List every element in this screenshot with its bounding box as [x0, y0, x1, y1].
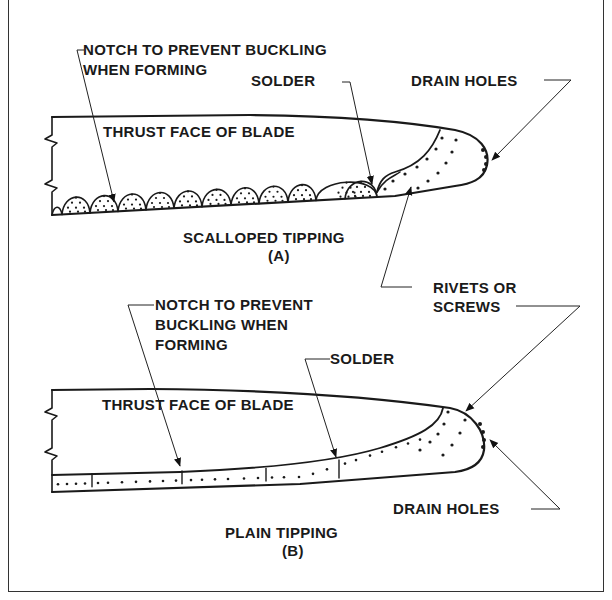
solder-a-leader — [342, 82, 372, 184]
scallop-stipple-dot — [135, 198, 137, 200]
strip-rivet-dot — [227, 478, 230, 481]
notch-a-label-line1: NOTCH TO PREVENT BUCKLING — [83, 41, 327, 58]
strip-rivet-dot — [257, 477, 260, 480]
scallop-stipple-dot — [362, 195, 364, 197]
rivet — [446, 410, 449, 413]
strip-rivet-dot — [66, 483, 69, 486]
scallop-stipple-dot — [77, 211, 79, 213]
rivet — [450, 150, 453, 153]
drain-hole — [481, 445, 485, 449]
scallop-stipple-dot — [151, 202, 153, 204]
solder-a-label: SOLDER — [251, 72, 315, 89]
strip-rivet-dot — [190, 479, 193, 482]
rivet — [426, 179, 429, 182]
scallop-stipple-dot — [360, 181, 362, 183]
scallop-stipple-dot — [215, 199, 217, 201]
rivet — [391, 179, 394, 182]
strip-rivet-dot — [135, 481, 138, 484]
blade-b-strip-edge — [52, 408, 443, 475]
scallop-stipple-dot — [75, 197, 77, 199]
scallop-stipple-dot — [347, 196, 349, 198]
scallop-stipple-dot — [281, 200, 283, 202]
scallop-stipple-dot — [360, 191, 362, 193]
scallop-stipple-dot — [368, 191, 370, 193]
scallop-stipple-dot — [131, 203, 133, 205]
rivets-b-leader — [466, 306, 580, 411]
scallop-stipple-dot — [276, 191, 278, 193]
scallop-stipple-dot — [161, 206, 163, 208]
thrust-face-b-label: THRUST FACE OF BLADE — [102, 396, 294, 413]
scallop-stipple-dot — [211, 194, 213, 196]
scallop-stipple-dot — [99, 200, 101, 202]
caption-a-letter: (A) — [268, 247, 290, 264]
scallop-stipple-dot — [189, 204, 191, 206]
scallop-stipple-dot — [223, 199, 225, 201]
scallop-stipple-dot — [345, 182, 347, 184]
scallop-stipple-dot — [163, 197, 165, 199]
scallop-stipple-dot — [217, 203, 219, 205]
solder-b-leader — [305, 359, 336, 457]
drain-hole — [484, 162, 488, 166]
scallop-stipple-dot — [107, 200, 109, 202]
scallop-stipple-dot — [195, 200, 197, 202]
scallop-stipple-dot — [297, 189, 299, 191]
strip-rivet-dot — [395, 446, 398, 449]
scallop-stipple-dot — [272, 196, 274, 198]
strip-rivet-dot — [243, 477, 246, 480]
scallop-stipple-dot — [219, 194, 221, 196]
rivet — [458, 431, 461, 434]
scallop-notches — [52, 181, 377, 215]
strip-rivet-dot — [344, 462, 347, 465]
scallop-stipple-dot — [127, 198, 129, 200]
strip-rivet-dot — [271, 476, 274, 479]
rivet — [450, 443, 453, 446]
scallop-stipple-dot — [84, 211, 86, 213]
scallop-stipple-dot — [266, 200, 268, 202]
strip-rivet-dot — [283, 476, 286, 479]
drain-holes-b-label: DRAIN HOLES — [393, 500, 500, 517]
strip-rivet-dot — [97, 482, 100, 485]
scallop-stipple-dot — [268, 191, 270, 193]
rivet — [416, 186, 419, 189]
scallop-stipple-dot — [303, 198, 305, 200]
scallop-stipple-dot — [69, 211, 71, 213]
notch-a-label-line2: WHEN FORMING — [83, 61, 207, 78]
scallop-stipple-dot — [354, 195, 356, 197]
scallop-stipple-dot — [181, 204, 183, 206]
scallop-stipple-dot — [301, 194, 303, 196]
scallop-stipple-dot — [131, 193, 133, 195]
scallop-stipple-dot — [252, 197, 254, 199]
scallop-stipple-dot — [67, 207, 69, 209]
scallop-stipple-dot — [71, 202, 73, 204]
rivet — [440, 136, 443, 139]
strip-rivet-dot — [355, 459, 358, 462]
scallop-stipple-dot — [97, 209, 99, 211]
thrust-face-a-label: THRUST FACE OF BLADE — [103, 123, 295, 140]
rivet — [428, 440, 431, 443]
rivet — [436, 432, 439, 435]
rivets-label-line2: SCREWS — [433, 298, 501, 315]
scallop-stipple-dot — [123, 203, 125, 205]
scallop-stipple-dot — [280, 196, 282, 198]
strip-rivet-dot — [214, 478, 217, 481]
scallop-stipple-dot — [103, 205, 105, 207]
strip-rivet-dot — [369, 454, 372, 457]
scallop-stipple-dot — [364, 186, 366, 188]
drain-hole — [482, 168, 486, 172]
scallop-stipple-dot — [207, 199, 209, 201]
caption-b-letter: (B) — [282, 542, 304, 559]
strip-rivet-dot — [162, 480, 165, 483]
caption-a: SCALLOPED TIPPING — [183, 229, 345, 246]
rivet — [383, 187, 386, 190]
scallop-stipple-dot — [209, 203, 211, 205]
rivet — [441, 453, 444, 456]
scallop-stipple-dot — [310, 198, 312, 200]
strip-rivet-dot — [419, 438, 422, 441]
scallop-stipple-dot — [111, 205, 113, 207]
scallop-stipple-dot — [133, 207, 135, 209]
rivets-a-leader — [381, 187, 412, 287]
strip-rivet-dot — [407, 442, 410, 445]
propeller-tipping-diagram: NOTCH TO PREVENT BUCKLING WHEN FORMING S… — [0, 0, 612, 600]
scallop-stipple-dot — [187, 200, 189, 202]
scallop-stipple-dot — [103, 195, 105, 197]
